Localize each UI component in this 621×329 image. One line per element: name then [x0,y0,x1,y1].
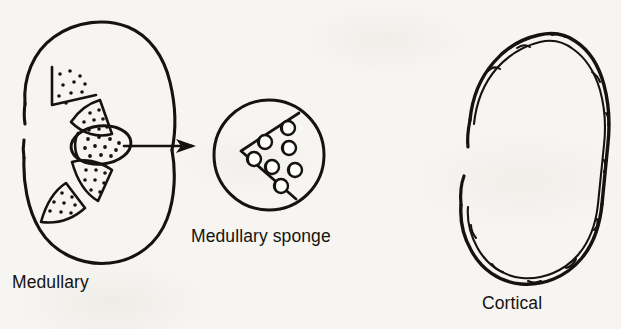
medullary-kidney-outline-upper [25,22,175,150]
cortical-surface-bumps [471,34,609,283]
magnification-arrow [124,139,196,153]
medullary-kidney-diagram [23,22,175,263]
caption-medullary-sponge: Medullary sponge [191,228,331,246]
cortical-kidney-outline-outer-lower [461,204,602,284]
figure-canvas: Medullary Medullary sponge Cortical [0,0,621,329]
cortical-kidney-outline-inner-upper [474,41,605,204]
cyst [258,135,272,149]
medullary-sponge-diagram [214,100,324,210]
medullary-hilum-lower-tip [23,140,24,158]
cyst [282,141,296,155]
caption-medullary: Medullary [12,274,89,292]
cyst [281,121,295,135]
cyst [274,179,288,193]
medullary-hilum-upper-tip [24,104,25,124]
cortical-hilum-lower-tip [461,176,464,205]
medullary-sponge-cysts [247,121,302,193]
cortical-kidney-outline-inner-lower [468,204,598,278]
medullary-pyramid-upper-left [52,67,96,105]
cortical-hilum-upper-tip [468,120,470,147]
cyst [288,163,302,177]
medullary-pyramid-lower-left [41,183,85,222]
medullary-pyramid-mid-upper [71,100,112,136]
caption-cortical: Cortical [482,295,542,313]
figure-illustration [0,0,621,329]
cyst [247,152,261,166]
medullary-sponge-magnifier-circle [214,100,324,210]
medullary-pyramid-mid-lower [72,160,112,201]
cortical-kidney-diagram [461,34,609,285]
cortical-kidney-outline-outer-upper [470,34,609,204]
cyst [265,160,279,174]
